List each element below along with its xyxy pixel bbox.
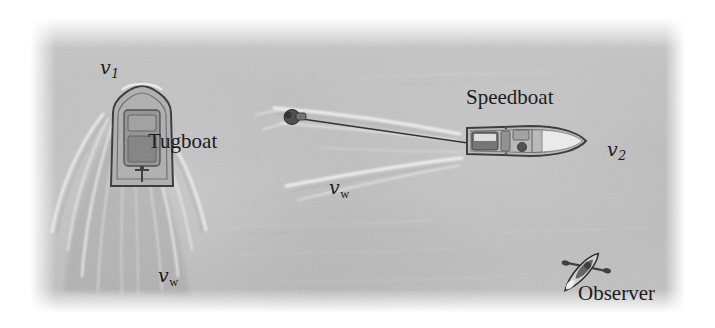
label-v1-subscript: 1 — [111, 66, 119, 81]
vessels-layer — [30, 18, 685, 313]
label-vw-left-subscript: w — [169, 275, 178, 289]
label-observer: Observer — [578, 283, 655, 304]
label-speedboat: Speedboat — [466, 87, 553, 108]
tow-rope — [302, 119, 468, 143]
speedboat-illustration — [467, 126, 586, 156]
label-v2-subscript: 2 — [618, 148, 626, 163]
label-vw-middle-subscript: w — [340, 187, 349, 201]
label-vw-middle-symbol: v — [329, 176, 340, 198]
label-v2: v2 — [607, 140, 626, 162]
label-vw-middle: vw — [329, 178, 349, 200]
towed-skier — [284, 110, 306, 125]
label-vw-left: vw — [158, 266, 178, 288]
label-v2-symbol: v — [607, 138, 618, 160]
label-v1: v1 — [100, 58, 119, 80]
label-tugboat: Tugboat — [148, 131, 217, 152]
speedboat-driver — [517, 142, 526, 151]
label-v1-symbol: v — [100, 56, 111, 78]
water-photo-plate — [30, 18, 685, 313]
physics-figure-wave-doppler: v1 Tugboat vw vw Speedboat v2 Observer — [0, 0, 715, 328]
label-vw-left-symbol: v — [158, 264, 169, 286]
